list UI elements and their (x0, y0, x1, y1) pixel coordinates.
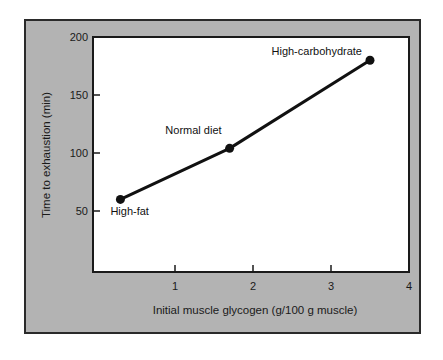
x-axis-title: Initial muscle glycogen (g/100 g muscle) (153, 304, 358, 316)
data-point (116, 195, 125, 204)
line-chart: 50100150200 1234 High-fatNormal dietHigh… (0, 0, 443, 360)
y-tick-label: 50 (76, 205, 88, 217)
point-label: High-carbohydrate (272, 45, 363, 57)
x-tick-label: 3 (328, 280, 334, 292)
data-point (366, 56, 375, 65)
y-axis-title: Time to exhaustion (min) (40, 92, 52, 218)
plot-area (93, 37, 409, 272)
x-tick-label: 1 (172, 280, 178, 292)
y-tick-label: 200 (70, 31, 88, 43)
y-tick-label: 100 (70, 147, 88, 159)
y-tick-label: 150 (70, 89, 88, 101)
x-tick-label: 4 (406, 280, 412, 292)
point-label: High-fat (110, 205, 149, 217)
data-point (225, 144, 234, 153)
point-label: Normal diet (165, 124, 221, 136)
x-tick-label: 2 (250, 280, 256, 292)
